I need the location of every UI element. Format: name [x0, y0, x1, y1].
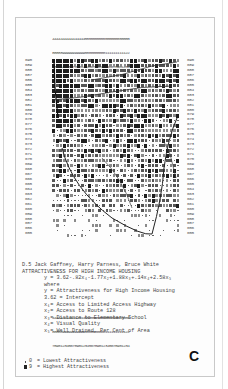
line-printer-grid-map	[52, 58, 180, 238]
block-symbol-icon	[22, 365, 29, 369]
column-index-line: 44444444444444445555555555555555555555	[52, 37, 180, 42]
road-overlay	[52, 58, 180, 238]
definition-y: y = Attractiveness for High Income Housi…	[22, 288, 210, 295]
definition-x1: x₁= Access to Limited Access Highway	[22, 302, 210, 309]
dot-symbol-icon	[22, 359, 29, 363]
map-legend: 0 = Lowest Attractiveness 9 = Highest At…	[22, 358, 109, 370]
row-index-labels-left: 690 689 688 687 686 685 684 683 682 681 …	[25, 58, 32, 236]
definition-intercept: 3.62 = Intercept	[22, 295, 210, 302]
legend-code: 9	[29, 364, 37, 370]
caption-title: ATTRACTIVENESS FOR HIGH INCOME HOUSING	[22, 269, 210, 276]
plate-letter: C	[189, 348, 199, 364]
row-index-labels-right: 690 689 688 687 686 685 684 683 682 681 …	[187, 58, 194, 236]
caption-where: where	[22, 282, 210, 289]
definition-x2: x₂= Access to Route 128	[22, 308, 210, 315]
definition-x3: x₃= Distance to Elementary School	[22, 315, 210, 322]
column-index-line: 78901234567890123456789012345678901234	[52, 344, 180, 349]
legend-item-highest: 9 = Highest Attractiveness	[22, 364, 109, 370]
column-index-line: 88888999999999990000000000111111111122	[52, 51, 180, 56]
regression-equation: y = 3.62-.82x₁-1.77x₂+1.88x₃+.14x₄+2.58x…	[22, 275, 210, 282]
legend-label: = Highest Attractiveness	[37, 364, 109, 370]
definition-x5: x₅= Well Drained, Per Cent of Area	[22, 328, 210, 335]
definition-x4: x₄= Visual Quality	[22, 321, 210, 328]
map-plate: 44444444444444445555555555555555555555 8…	[15, 17, 215, 377]
figure-caption: D.5 Jack Gaffney, Harry Parness, Bruce W…	[22, 262, 210, 335]
caption-authors: D.5 Jack Gaffney, Harry Parness, Bruce W…	[22, 262, 210, 269]
